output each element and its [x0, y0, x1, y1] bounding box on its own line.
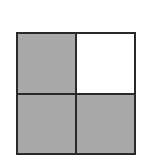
shaded-cell [18, 95, 75, 154]
fraction-grid [16, 32, 136, 155]
shaded-cell [77, 95, 134, 154]
shaded-cell [18, 34, 75, 93]
unshaded-cell [77, 34, 134, 93]
